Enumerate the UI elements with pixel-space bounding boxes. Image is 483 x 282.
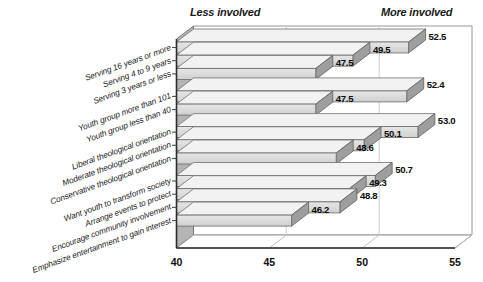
x-tick-label: 40 <box>157 256 197 268</box>
value-label: 48.6 <box>356 142 373 153</box>
x-tick-label: 45 <box>249 256 289 268</box>
value-label: 53.0 <box>438 115 455 126</box>
value-label: 49.5 <box>373 44 390 55</box>
value-label: 52.4 <box>427 79 444 90</box>
bar <box>177 202 309 226</box>
value-label: 50.1 <box>384 128 401 139</box>
value-label: 52.5 <box>429 31 446 42</box>
value-label: 49.3 <box>369 177 386 188</box>
bar-chart: Less involved More involved Serving 16 y… <box>0 0 483 282</box>
value-label: 47.5 <box>336 57 353 68</box>
value-label: 46.2 <box>312 204 329 215</box>
value-label: 50.7 <box>395 164 412 175</box>
x-tick-label: 50 <box>342 256 382 268</box>
bar <box>177 140 354 164</box>
bar <box>177 55 333 79</box>
value-label: 48.8 <box>360 190 377 201</box>
x-tick-label: 55 <box>435 256 475 268</box>
bar <box>177 91 333 115</box>
value-label: 47.5 <box>336 93 353 104</box>
